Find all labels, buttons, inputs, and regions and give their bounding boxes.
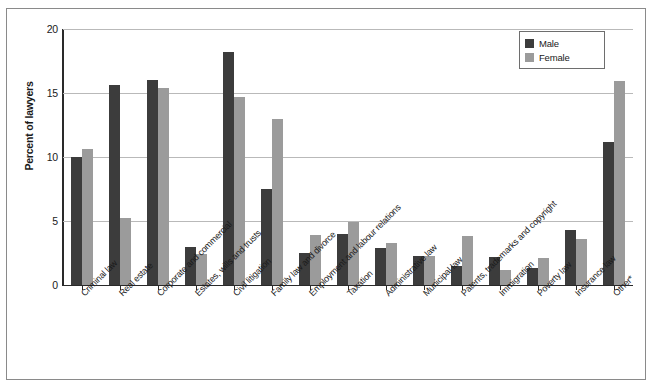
chart-figure: Percent of lawyers 05101520 Male Female …: [0, 0, 654, 391]
bar-group: [261, 29, 283, 285]
y-tick-label-0: 0: [24, 279, 58, 291]
legend-swatch-female: [525, 53, 534, 62]
bar-group: [451, 29, 473, 285]
y-tick-label-15: 15: [24, 87, 58, 99]
legend-item-male: Male: [525, 36, 599, 50]
legend-item-female: Female: [525, 50, 599, 64]
bar-male: [71, 157, 82, 285]
bar-male: [375, 248, 386, 285]
bar-female: [82, 149, 93, 285]
bar-female: [158, 88, 169, 285]
bar-male: [109, 85, 120, 285]
bar-female: [614, 81, 625, 285]
bar-group: [603, 29, 625, 285]
bar-group: [109, 29, 131, 285]
bar-female: [272, 119, 283, 285]
legend-label-male: Male: [539, 38, 559, 49]
legend-label-female: Female: [539, 52, 569, 63]
bar-group: [71, 29, 93, 285]
bar-female: [120, 218, 131, 285]
y-tick-label-20: 20: [24, 23, 58, 35]
bar-group: [147, 29, 169, 285]
bar-group: [375, 29, 397, 285]
y-tick-label-5: 5: [24, 215, 58, 227]
bar-male: [565, 230, 576, 285]
legend-swatch-male: [525, 39, 534, 48]
chart-legend: Male Female: [519, 31, 605, 69]
y-axis-tick-labels: 05101520: [18, 0, 58, 391]
y-tick-label-10: 10: [24, 151, 58, 163]
bar-male: [147, 80, 158, 285]
